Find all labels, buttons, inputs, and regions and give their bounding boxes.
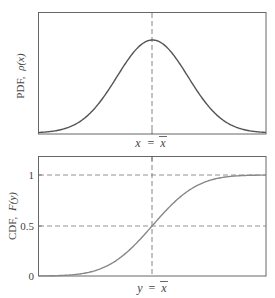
figure: PDF, ρ(x) x = x 1 0.5 0 CDF, F(y) y = x	[0, 0, 275, 298]
cdf-ylabel: CDF, F(y)	[6, 192, 19, 240]
pdf-ylabel-text: PDF,	[14, 76, 26, 98]
pdf-panel: PDF, ρ(x) x = x	[14, 13, 266, 151]
cdf-ylabel-text: CDF,	[6, 216, 18, 240]
cdf-xlabel-mean: x	[160, 281, 167, 295]
pdf-xlabel-var: x	[134, 136, 141, 150]
cdf-ylabel-func: F(y)	[6, 192, 19, 212]
cdf-panel: 1 0.5 0 CDF, F(y) y = x	[6, 157, 266, 296]
pdf-xlabel-mean: x	[159, 136, 166, 150]
cdf-ytick-label-05: 0.5	[20, 220, 34, 232]
pdf-xlabel: x = x	[134, 136, 167, 150]
cdf-xlabel-var: y	[136, 281, 143, 295]
pdf-ylabel: PDF, ρ(x)	[14, 53, 27, 99]
cdf-xlabel-eq: =	[149, 281, 156, 295]
cdf-ytick-label-0: 0	[29, 270, 35, 282]
cdf-curve	[39, 175, 266, 276]
cdf-ytick-label-1: 1	[29, 169, 35, 181]
cdf-xlabel: y = x	[136, 281, 168, 295]
pdf-ylabel-func: ρ(x)	[14, 53, 27, 72]
pdf-xlabel-eq: =	[148, 136, 155, 150]
pdf-curve	[39, 40, 266, 132]
